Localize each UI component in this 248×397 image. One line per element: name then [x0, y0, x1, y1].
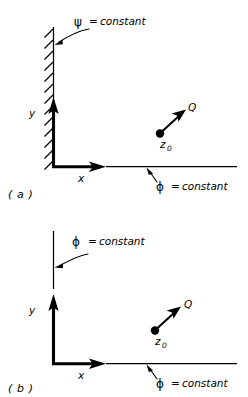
wall-hatching-a [45, 29, 54, 170]
psi-constant-label-a: ψ = constant [74, 15, 147, 29]
z0-label-b: z [154, 335, 161, 347]
source-point-a: Q z 0 [156, 101, 196, 153]
z0-label-a: z [159, 138, 166, 150]
phi-symbol-b-bottom: ϕ [156, 377, 164, 391]
y-axis-label-a: y [28, 107, 36, 119]
panel-caption-a: ( a ) [8, 188, 33, 201]
z0-subscript-a: 0 [167, 144, 172, 153]
x-axis-label-b: x [77, 369, 85, 381]
source-point-b: Q z 0 [151, 298, 192, 350]
q-vector-shaft-a [162, 116, 180, 132]
y-axis-a [48, 97, 58, 168]
phi-constant-label-b-top: ϕ = constant [72, 235, 146, 249]
phi-constant-value-b-top: constant [99, 235, 146, 247]
q-vector-shaft-b [157, 313, 175, 329]
phi-symbol-b-top: ϕ [72, 235, 80, 249]
panel-caption-b: ( b ) [8, 382, 34, 395]
phi-symbol-a: ϕ [156, 180, 164, 194]
psi-constant-value-a: constant [100, 15, 147, 27]
phi-equals-sign-b-top: = [88, 235, 97, 247]
x-axis-b [52, 359, 237, 369]
phi-equals-sign-b-bottom: = [171, 377, 180, 389]
phi-constant-value-b-bottom: constant [182, 377, 229, 389]
phi-constant-value-a: constant [182, 180, 229, 192]
phi-equals-sign-a: = [171, 180, 180, 192]
psi-symbol-a: ψ [74, 15, 82, 29]
q-label-b: Q [184, 298, 192, 310]
z0-subscript-b: 0 [162, 341, 167, 350]
phi-label-leader-b [55, 254, 89, 268]
y-axis-label-b: y [28, 304, 36, 316]
panel-a: ψ = constant y x [8, 15, 237, 201]
figure-container: ψ = constant y x [0, 0, 248, 397]
panel-b: ϕ = constant y x [8, 231, 237, 395]
q-label-a: Q [188, 101, 196, 113]
phi-constant-label-b-bottom: ϕ = constant [156, 377, 229, 391]
psi-equals-sign-a: = [89, 15, 98, 27]
phi-constant-label-a: ϕ = constant [156, 180, 229, 194]
psi-label-leader-a [55, 29, 90, 45]
x-axis-label-a: x [77, 172, 85, 184]
x-axis-a [52, 162, 237, 172]
y-axis-b [48, 294, 58, 365]
